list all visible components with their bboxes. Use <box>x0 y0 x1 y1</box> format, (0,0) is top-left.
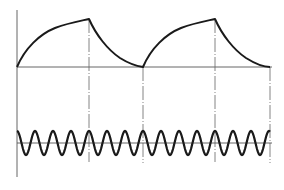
waveform-diagram <box>0 0 284 190</box>
guide-lines <box>89 19 270 163</box>
charge-discharge-curve <box>17 19 270 67</box>
